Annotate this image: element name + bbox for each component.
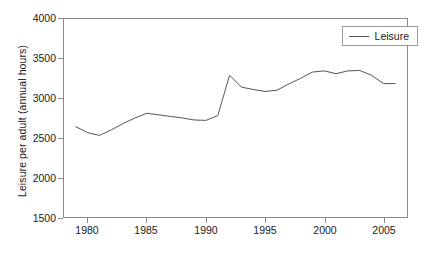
x-tick-mark: [206, 218, 207, 223]
x-tick-mark: [384, 218, 385, 223]
line-series-leisure: [76, 70, 395, 135]
plot-area: [63, 18, 408, 218]
y-tick-label: 3000: [0, 93, 56, 103]
x-tick-mark: [87, 218, 88, 223]
y-tick-label: 4000: [0, 13, 56, 23]
x-tick-mark: [325, 218, 326, 223]
y-tick-label: 2500: [0, 133, 56, 143]
y-tick-label: 2000: [0, 173, 56, 183]
x-tick-label: 1995: [235, 225, 295, 236]
x-tick-label: 1990: [176, 225, 236, 236]
legend-line-swatch-icon: [349, 36, 369, 37]
y-tick-label: 1500: [0, 213, 56, 223]
x-tick-label: 2000: [295, 225, 355, 236]
chart-legend: Leisure: [342, 26, 418, 46]
y-axis-title: Leisure per adult (annual hours): [14, 6, 30, 236]
y-tick-label: 3500: [0, 53, 56, 63]
x-tick-label: 1980: [57, 225, 117, 236]
chart-figure: Leisure per adult (annual hours) 4000 35…: [0, 0, 430, 274]
x-tick-mark: [265, 218, 266, 223]
x-tick-label: 2005: [354, 225, 414, 236]
series-layer: [64, 19, 407, 217]
x-tick-label: 1985: [116, 225, 176, 236]
x-tick-mark: [146, 218, 147, 223]
y-tick-mark: [58, 218, 63, 219]
legend-label-leisure: Leisure: [375, 30, 409, 42]
